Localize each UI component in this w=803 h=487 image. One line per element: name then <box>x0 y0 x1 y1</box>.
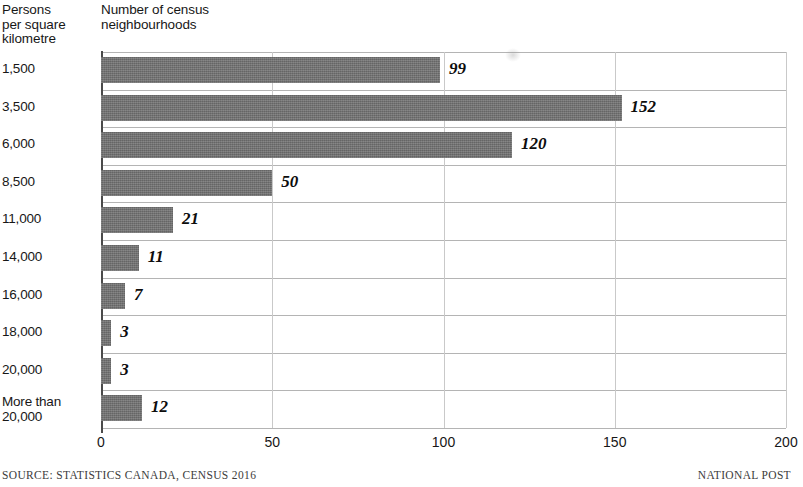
category-label: 1,500 <box>2 62 97 77</box>
bar-value-label: 50 <box>281 172 298 192</box>
x-axis-title: Number of census neighbourhoods <box>101 3 301 32</box>
bar <box>101 207 173 233</box>
bar <box>101 320 111 346</box>
bar-value-label: 152 <box>631 97 657 117</box>
bar <box>101 170 272 196</box>
bar-row: 3 <box>101 353 786 391</box>
gridline-vertical <box>786 52 787 428</box>
x-tick-label: 100 <box>432 434 455 451</box>
bar <box>101 358 111 384</box>
bar-value-label: 3 <box>120 322 129 342</box>
category-label: 14,000 <box>2 250 97 265</box>
category-label: 20,000 <box>2 363 97 378</box>
category-label: 8,500 <box>2 175 97 190</box>
bar-value-label: 12 <box>151 397 168 417</box>
bar-row: 99 <box>101 52 786 90</box>
category-label: 11,000 <box>2 212 97 227</box>
bar-row: 12 <box>101 390 786 428</box>
category-label: 16,000 <box>2 288 97 303</box>
chart-figure: Persons per square kilometre Number of c… <box>0 0 803 487</box>
bar-row: 120 <box>101 127 786 165</box>
y-axis-title: Persons per square kilometre <box>2 3 94 47</box>
bar-value-label: 21 <box>182 209 199 229</box>
gridline-horizontal <box>101 428 786 429</box>
bar-row: 50 <box>101 165 786 203</box>
x-tick-label: 50 <box>264 434 280 451</box>
bar <box>101 95 622 121</box>
x-tick-label: 0 <box>97 434 105 451</box>
bar-row: 11 <box>101 240 786 278</box>
bar-row: 152 <box>101 90 786 128</box>
bar-value-label: 11 <box>148 247 164 267</box>
category-label: 18,000 <box>2 325 97 340</box>
bar <box>101 132 512 158</box>
category-label: More than 20,000 <box>2 395 97 425</box>
bar-value-label: 3 <box>120 360 129 380</box>
bar-row: 3 <box>101 315 786 353</box>
source-note: SOURCE: STATISTICS CANADA, CENSUS 2016 <box>2 469 256 481</box>
bar-value-label: 120 <box>521 134 547 154</box>
bar <box>101 283 125 309</box>
x-tick-label: 200 <box>774 434 797 451</box>
bar <box>101 245 139 271</box>
category-label: 3,500 <box>2 100 97 115</box>
bar-value-label: 99 <box>449 59 466 79</box>
x-tick-label: 150 <box>603 434 626 451</box>
plot-area: 9915212050211173312 <box>101 52 786 428</box>
brand-credit: NATIONAL POST <box>698 469 791 481</box>
bar-row: 7 <box>101 278 786 316</box>
bar <box>101 395 142 421</box>
bar <box>101 57 440 83</box>
category-label: 6,000 <box>2 137 97 152</box>
bar-value-label: 7 <box>134 285 143 305</box>
bar-row: 21 <box>101 202 786 240</box>
